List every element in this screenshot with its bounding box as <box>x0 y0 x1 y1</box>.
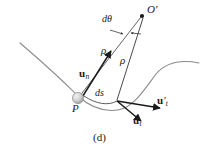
label-particle-point: P <box>72 103 79 114</box>
angle-tick-right-arrow <box>131 33 141 34</box>
figure-caption: (d) <box>93 132 106 143</box>
label-normal-vector: un <box>79 68 89 80</box>
label-angle-dtheta: dθ <box>102 14 112 24</box>
label-center-of-curvature: O′ <box>147 4 157 15</box>
angle-tick-left-arrow <box>110 30 123 34</box>
center-of-curvature-dot <box>140 14 144 18</box>
label-radius-right: ρ <box>120 55 125 66</box>
label-tangent-vector-new: u′t <box>157 95 168 107</box>
label-arc-length: ds <box>95 88 104 98</box>
radius-line-left <box>79 17 141 97</box>
label-radius-left: ρ <box>101 45 106 56</box>
label-tangent-vector: ut <box>133 115 142 127</box>
